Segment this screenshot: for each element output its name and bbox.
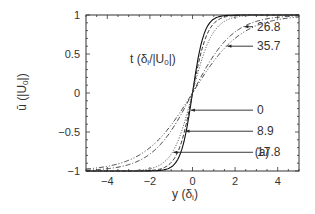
y-axis-label: ū (|U0|) [15,73,30,110]
arrowhead-icon [173,151,177,154]
annotation-label-t: 35.7 [257,39,281,53]
x-tick-label: −2 [144,175,157,187]
y-tick-label: −0.5 [58,126,80,138]
x-tick-label: 0 [189,175,195,187]
legend-title: t (δi/|U0|) [130,52,176,67]
axis-tick-labels: −4−2024−1−0.500.51 [58,9,280,187]
arrowhead-icon [191,109,195,112]
chart: −4−2024−1−0.500.51 08.917.826.835.7 y (δ… [0,0,315,214]
y-tick-label: −1 [67,165,80,177]
annotation-label-t: 8.9 [257,124,274,138]
y-tick-label: 0 [74,87,80,99]
x-tick-label: −4 [101,175,114,187]
panel-label: (a) [255,145,270,159]
annotation-label-t: 26.8 [257,20,281,34]
x-tick-label: 2 [232,175,238,187]
annotations: 08.917.826.835.7 [173,20,280,160]
y-tick-label: 0.5 [65,48,80,60]
y-tick-label: 1 [74,9,80,21]
x-axis-label: y (δi) [172,187,198,202]
annotation-label-t: 0 [257,103,264,117]
x-tick-label: 4 [275,175,281,187]
